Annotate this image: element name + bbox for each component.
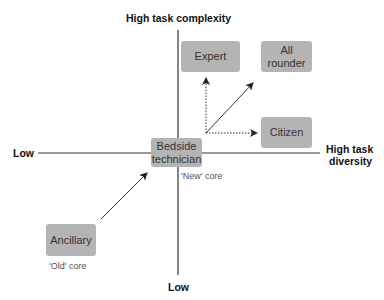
box-expert-label: Expert [195,50,227,63]
axis-label-bottom: Low [168,281,189,293]
box-ancillary: Ancillary [46,224,96,256]
box-citizen-label: Citizen [270,126,304,139]
box-all-rounder: All rounder [261,41,312,72]
arrow-to-all-rounder [206,83,253,133]
box-ancillary-label: Ancillary [50,234,92,247]
box-citizen: Citizen [261,117,312,148]
axis-label-right-2: diversity [329,155,372,167]
axis-label-right-1: High task [326,143,373,155]
box-expert: Expert [181,41,240,72]
arrow-to-bedside [101,173,147,219]
box-bedside-label-1: Bedside [157,140,197,153]
box-all-rounder-label-1: All [280,44,292,57]
axis-label-top: High task complexity [126,12,231,24]
role-quadrant-diagram: High task complexity Low Low High task d… [0,0,384,300]
axis-label-left: Low [13,147,34,159]
note-old-core: 'Old' core [49,261,86,271]
box-bedside-technician: Bedside technician [151,138,202,167]
note-new-core: 'New' core [181,171,222,181]
box-bedside-label-2: technician [152,153,202,166]
box-all-rounder-label-2: rounder [268,57,306,70]
